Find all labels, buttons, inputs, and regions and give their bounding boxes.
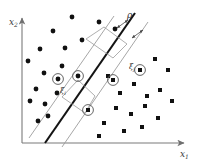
- data-point: [111, 78, 115, 82]
- data-point: [28, 99, 33, 104]
- data-point: [51, 29, 56, 34]
- data-point: [132, 82, 136, 86]
- data-point: [138, 68, 142, 72]
- data-point: [70, 15, 75, 20]
- data-point: [156, 116, 160, 120]
- data-point: [55, 91, 60, 96]
- data-point: [56, 77, 61, 82]
- data-point: [46, 114, 51, 119]
- data-point: [118, 91, 122, 95]
- data-point: [143, 104, 147, 108]
- data-point: [97, 20, 102, 25]
- data-point: [102, 121, 106, 125]
- data-point: [34, 87, 39, 92]
- data-point: [129, 112, 133, 116]
- data-point: [36, 119, 41, 124]
- data-point: [60, 64, 65, 69]
- data-point: [140, 125, 144, 129]
- figure-background: [0, 0, 199, 165]
- data-point: [63, 46, 68, 51]
- data-point: [170, 99, 174, 103]
- svm-margin-figure: x1 x2 ρ: [0, 0, 199, 165]
- data-point: [38, 47, 43, 52]
- data-point: [97, 134, 101, 138]
- data-point: [80, 38, 85, 43]
- data-point: [42, 71, 47, 76]
- data-point: [43, 102, 48, 107]
- figure-canvas: x1 x2 ρ: [0, 0, 199, 165]
- data-point: [145, 94, 149, 98]
- rho-label: ρ: [126, 10, 133, 20]
- data-point: [122, 129, 126, 133]
- data-point: [86, 108, 90, 112]
- data-point: [113, 27, 118, 32]
- data-point: [166, 68, 170, 72]
- data-point: [26, 59, 31, 64]
- data-point: [114, 106, 118, 110]
- data-point: [153, 57, 157, 61]
- data-point: [76, 74, 81, 79]
- data-point: [158, 88, 162, 92]
